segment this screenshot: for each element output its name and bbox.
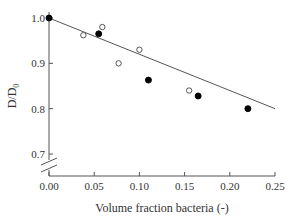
x-tick-label: 0.20 <box>220 180 240 192</box>
y-axis-label: D/D0 <box>5 84 21 109</box>
x-tick-label: 0.25 <box>265 180 285 192</box>
open-data-point <box>137 47 142 52</box>
chart: 0.70.80.91.0 0.000.050.100.150.200.25 Vo… <box>0 0 299 219</box>
x-axis-label: Volume fraction bacteria (-) <box>95 201 228 215</box>
y-tick-label: 0.9 <box>31 57 45 69</box>
axes <box>41 12 275 176</box>
plot-area <box>46 15 275 112</box>
x-tick-label: 0.15 <box>175 180 195 192</box>
filled-data-point <box>145 77 151 83</box>
open-data-point <box>116 61 121 66</box>
x-tick-label: 0.10 <box>130 180 150 192</box>
y-tick-labels: 0.70.80.91.0 <box>31 12 53 160</box>
y-tick-label: 0.8 <box>31 103 45 115</box>
fit-line <box>49 18 275 109</box>
open-data-point <box>186 88 191 93</box>
y-tick-label: 0.7 <box>31 148 45 160</box>
x-tick-label: 0.05 <box>85 180 105 192</box>
x-tick-label: 0.00 <box>39 180 59 192</box>
filled-data-point <box>96 31 102 37</box>
y-tick-label: 1.0 <box>31 12 45 24</box>
open-data-point <box>81 33 86 38</box>
filled-data-point <box>195 93 201 99</box>
x-tick-labels: 0.000.050.100.150.200.25 <box>39 172 285 192</box>
filled-data-point <box>245 106 251 112</box>
open-data-point <box>100 24 105 29</box>
filled-data-point <box>46 15 52 21</box>
